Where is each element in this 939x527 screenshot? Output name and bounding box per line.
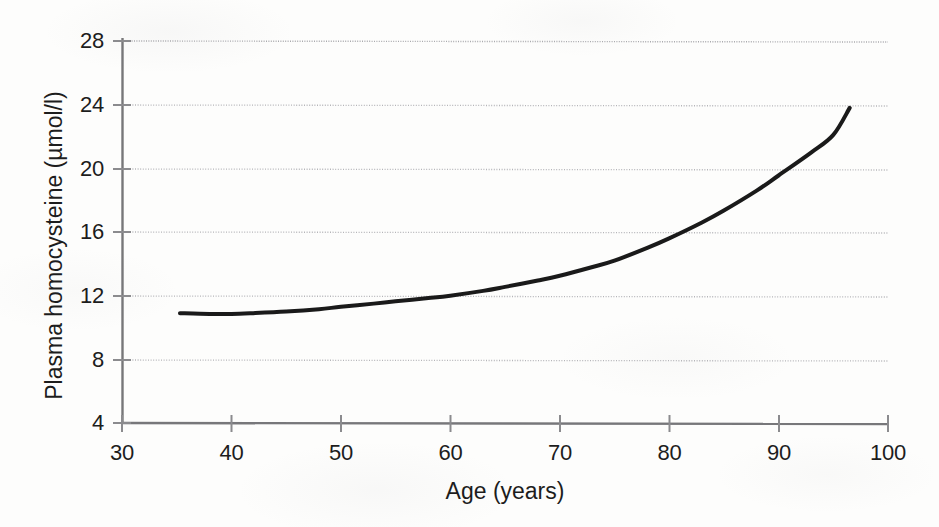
x-tick-label-80: 80 xyxy=(657,440,681,466)
figure-canvas: 28 24 20 16 12 8 4 30 40 50 60 70 80 90 … xyxy=(0,0,939,527)
chart-plot xyxy=(0,0,939,527)
x-tick-label-90: 90 xyxy=(767,440,791,466)
y-axis-title: Plasma homocysteine (µmol/l) xyxy=(41,46,68,446)
x-tick-label-70: 70 xyxy=(548,440,572,466)
x-axis-spine xyxy=(121,423,889,424)
x-tick-label-100: 100 xyxy=(870,440,906,466)
x-tick-label-30: 30 xyxy=(110,440,134,466)
x-tick-label-40: 40 xyxy=(219,440,243,466)
x-tick-label-60: 60 xyxy=(438,440,462,466)
x-axis-title: Age (years) xyxy=(446,478,565,505)
x-tick-label-50: 50 xyxy=(329,440,353,466)
data-series-line xyxy=(180,108,850,314)
